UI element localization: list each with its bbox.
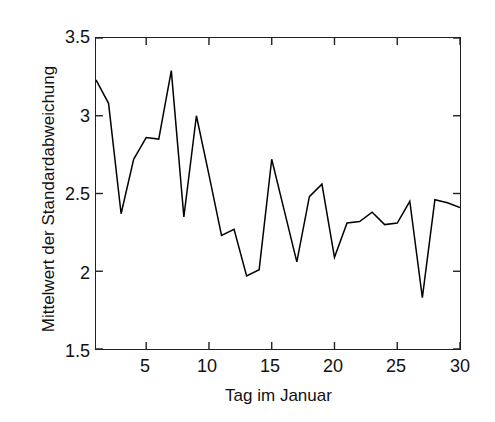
x-tick-label-10: 10 (177, 357, 237, 375)
x-tick-label-30: 30 (430, 357, 490, 375)
axis-tick-marks (96, 38, 460, 349)
chart-figure: Mittelwert der Standardabweichung 3.5 3 … (0, 0, 495, 422)
data-line-series-0 (96, 71, 460, 298)
x-tick-label-20: 20 (303, 357, 363, 375)
x-tick-label-5: 5 (115, 357, 175, 375)
data-series-group (96, 71, 460, 298)
plot-canvas (96, 38, 460, 349)
x-axis-title: Tag im Januar (95, 386, 462, 406)
plot-area (95, 37, 461, 350)
x-tick-label-25: 25 (366, 357, 426, 375)
x-tick-label-15: 15 (240, 357, 300, 375)
